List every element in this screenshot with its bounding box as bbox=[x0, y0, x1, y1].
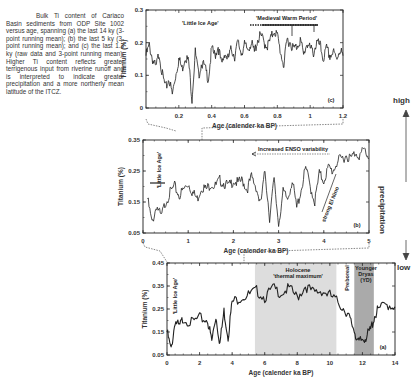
annotation-little-ice-age: 'Little Ice Age' bbox=[182, 20, 219, 26]
y-tick-label: 0.25 bbox=[128, 168, 140, 174]
panel-label: (a) bbox=[380, 344, 387, 350]
annotation-yd: (YD) bbox=[360, 277, 371, 283]
precip-axis-label: precipitation bbox=[378, 186, 387, 246]
y-axis-label: Titanium (%) bbox=[141, 290, 149, 329]
annotation-enso-variability: Increased ENSO variability bbox=[258, 146, 329, 152]
y-tick-label: 0.1 bbox=[135, 72, 144, 78]
x-tick-label: 10 bbox=[327, 360, 334, 366]
x-tick-label: 0.4 bbox=[207, 113, 216, 119]
x-axis-label: Age (calender ka BP) bbox=[248, 369, 313, 377]
x-tick-label: 1 bbox=[187, 238, 191, 244]
x-tick-label: 14 bbox=[392, 360, 399, 366]
y-tick-label: 0.2 bbox=[135, 40, 144, 46]
zoom-connector bbox=[146, 119, 176, 131]
x-tick-label: 0 bbox=[165, 360, 169, 366]
x-tick-label: 4 bbox=[230, 360, 234, 366]
annotation-preboreal: Preboreal bbox=[344, 265, 350, 291]
y-axis-label: Titanium (%) bbox=[120, 40, 128, 79]
x-tick-label: 1 bbox=[308, 113, 312, 119]
y-tick-label: 0.25 bbox=[152, 306, 164, 312]
x-tick-label: 3 bbox=[277, 238, 281, 244]
x-tick-label: 0.2 bbox=[175, 113, 184, 119]
y-tick-label: 0.05 bbox=[128, 230, 140, 236]
figure-canvas: 0.20.40.60.811.200.10.20.3Age (calender … bbox=[0, 0, 419, 388]
y-tick-label: 0.15 bbox=[128, 199, 140, 205]
x-axis-label: Age (calender ka BP) bbox=[212, 122, 277, 130]
x-tick-label: 6 bbox=[263, 360, 267, 366]
y-tick-label: 0.15 bbox=[152, 329, 164, 335]
x-tick-label: 0.6 bbox=[240, 113, 249, 119]
precip-low-label: low bbox=[397, 263, 410, 272]
x-tick-label: 0.8 bbox=[273, 113, 282, 119]
y-tick-label: 0.3 bbox=[135, 7, 144, 13]
y-tick-label: 0 bbox=[140, 105, 144, 111]
y-tick-label: 0.35 bbox=[128, 137, 140, 143]
x-tick-label: 4 bbox=[322, 238, 326, 244]
y-tick-label: 0.35 bbox=[152, 283, 164, 289]
x-tick-label: 2 bbox=[232, 238, 236, 244]
y-axis-label: Titanium (%) bbox=[117, 167, 125, 206]
annotation-little-ice-age-a: 'Little Ice Age' bbox=[172, 277, 178, 314]
panel-label: (c) bbox=[328, 97, 335, 103]
x-tick-label: 8 bbox=[296, 360, 300, 366]
x-tick-label: 12 bbox=[359, 360, 366, 366]
ti-series-line bbox=[146, 30, 343, 103]
y-tick-label: 0.45 bbox=[152, 260, 164, 266]
precip-high-label: high bbox=[393, 96, 410, 105]
x-tick-label: 1.2 bbox=[339, 113, 348, 119]
annotation-thermal-maximum: 'thermal maximum' bbox=[273, 273, 323, 279]
x-tick-label: 2 bbox=[198, 360, 202, 366]
y-tick-label: 0.05 bbox=[152, 352, 164, 358]
panel-label: (b) bbox=[353, 222, 360, 228]
annotation-el-nino: strong El Nino bbox=[320, 185, 340, 223]
annotation-medieval-warm-period: 'Medieval Warm Period' bbox=[256, 15, 318, 21]
